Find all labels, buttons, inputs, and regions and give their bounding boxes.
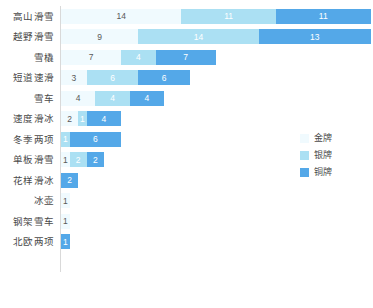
bar-value-label: 1 [63,197,68,206]
category-label: 短道速滑 [0,73,60,83]
bar-segment-bronze: 6 [70,132,122,147]
bar-value-label: 6 [162,74,167,83]
bar-segment-silver: 14 [138,29,258,44]
bar-segment-gold: 3 [61,70,87,85]
bar-segment-silver: 6 [87,70,139,85]
bar-value-label: 2 [67,115,72,124]
bar-segment-bronze: 4 [130,91,164,106]
stacked-bar: 2 [61,173,78,188]
category-label: 雪车 [0,94,60,104]
category-label: 速度滑冰 [0,114,60,124]
stacked-bar: 16 [61,132,121,147]
bar-value-label: 4 [136,53,141,62]
stacked-bar: 444 [61,91,164,106]
bar-segment-silver: 4 [95,91,129,106]
chart-row: 北欧两项1 [0,232,373,253]
bar-value-label: 2 [76,156,81,165]
chart-row: 速度滑冰214 [0,109,373,130]
category-label: 单板滑雪 [0,155,60,165]
bar-value-label: 6 [110,74,115,83]
stacked-bar: 1 [61,234,70,249]
bar-value-label: 4 [145,94,150,103]
bar-value-label: 2 [67,176,72,185]
bar-segment-silver: 2 [70,152,87,167]
legend-swatch-icon [300,151,309,160]
legend-swatch-icon [300,134,309,143]
bar-value-label: 6 [93,135,98,144]
category-label: 钢架雪车 [0,217,60,227]
category-label: 雪橇 [0,53,60,63]
stacked-bar: 366 [61,70,190,85]
bar-value-label: 13 [310,33,319,42]
category-label: 冰壶 [0,196,60,206]
bar-segment-gold: 9 [61,29,138,44]
bar-value-label: 2 [93,156,98,165]
bar-value-label: 7 [89,53,94,62]
bar-segment-silver: 4 [121,50,155,65]
bar-value-label: 3 [72,74,77,83]
bar-segment-gold: 1 [61,214,70,229]
category-label: 北欧两项 [0,237,60,247]
legend-swatch-icon [300,168,309,177]
bar-value-label: 14 [194,33,203,42]
bar-segment-bronze: 7 [156,50,216,65]
bar-segment-bronze: 6 [138,70,190,85]
bar-segment-silver: 1 [61,132,70,147]
legend-item[interactable]: 银牌 [300,148,370,163]
bar-value-label: 7 [183,53,188,62]
bar-value-label: 1 [80,115,85,124]
category-label: 越野滑雪 [0,32,60,42]
medal-count-stacked-bar-chart: 高山滑雪141111越野滑雪91413雪橇747短道速滑366雪车444速度滑冰… [0,0,373,308]
bar-rows-container: 高山滑雪141111越野滑雪91413雪橇747短道速滑366雪车444速度滑冰… [0,6,373,252]
stacked-bar: 747 [61,50,216,65]
chart-row: 雪车444 [0,88,373,109]
bar-segment-gold: 14 [61,9,181,24]
chart-legend: 金牌银牌铜牌 [300,131,370,182]
bar-value-label: 4 [102,115,107,124]
legend-label: 金牌 [314,134,332,143]
bar-segment-silver: 11 [181,9,276,24]
bar-value-label: 14 [116,12,125,21]
chart-row: 雪橇747 [0,47,373,68]
chart-row: 钢架雪车1 [0,211,373,232]
chart-row: 高山滑雪141111 [0,6,373,27]
bar-segment-gold: 4 [61,91,95,106]
bar-segment-bronze: 2 [61,173,78,188]
stacked-bar: 141111 [61,9,371,24]
stacked-bar: 1 [61,214,70,229]
bar-segment-bronze: 4 [87,111,121,126]
legend-item[interactable]: 金牌 [300,131,370,146]
bar-value-label: 4 [76,94,81,103]
chart-row: 越野滑雪91413 [0,27,373,48]
stacked-bar: 91413 [61,29,371,44]
category-label: 花样滑冰 [0,176,60,186]
bar-value-label: 4 [110,94,115,103]
bar-segment-bronze: 2 [87,152,104,167]
bar-segment-bronze: 1 [61,234,70,249]
bar-segment-bronze: 13 [259,29,371,44]
legend-label: 铜牌 [314,168,332,177]
bar-segment-silver: 1 [78,111,87,126]
bar-value-label: 1 [63,135,68,144]
stacked-bar: 214 [61,111,121,126]
legend-item[interactable]: 铜牌 [300,165,370,180]
bar-segment-gold: 1 [61,152,70,167]
bar-value-label: 1 [63,156,68,165]
bar-value-label: 1 [63,217,68,226]
bar-value-label: 9 [97,33,102,42]
stacked-bar: 122 [61,152,104,167]
chart-row: 短道速滑366 [0,68,373,89]
bar-value-label: 1 [63,238,68,247]
legend-label: 银牌 [314,151,332,160]
bar-value-label: 11 [319,12,328,21]
stacked-bar: 1 [61,193,70,208]
bar-value-label: 11 [224,12,233,21]
bar-segment-gold: 1 [61,193,70,208]
bar-segment-gold: 2 [61,111,78,126]
category-label: 高山滑雪 [0,12,60,22]
category-label: 冬季两项 [0,135,60,145]
chart-row: 冰壶1 [0,191,373,212]
bar-segment-gold: 7 [61,50,121,65]
bar-segment-bronze: 11 [276,9,371,24]
